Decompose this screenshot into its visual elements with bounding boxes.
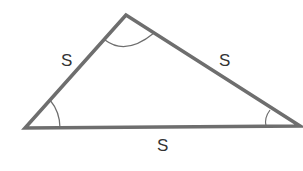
triangle	[25, 15, 300, 128]
side-label-left: S	[61, 52, 72, 69]
angle-arc-left	[50, 100, 60, 128]
angle-arc-top	[105, 33, 154, 47]
side-label-bottom: S	[157, 137, 168, 154]
angle-arc-right	[266, 110, 271, 126]
side-label-right: S	[219, 52, 230, 69]
triangle-diagram	[0, 0, 303, 171]
